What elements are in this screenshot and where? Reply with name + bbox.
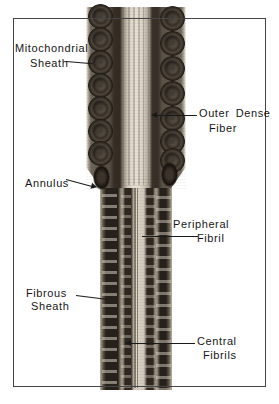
- label-mitochondrial-sheath-line1: Mitochondrial: [15, 42, 88, 55]
- label-central-fibrils-line2: Fibrils: [203, 349, 237, 362]
- label-outer-dense-fiber-line1: Outer Dense: [199, 107, 270, 120]
- label-peripheral-fibril-line2: Fibril: [197, 232, 224, 245]
- leader-peripheral-fibril: [142, 236, 198, 237]
- label-annulus: Annulus: [25, 177, 69, 190]
- label-mitochondrial-sheath-line2: Sheath: [30, 57, 68, 70]
- label-peripheral-fibril-line1: Peripheral: [173, 218, 229, 231]
- figure-frame: [13, 18, 266, 387]
- label-fibrous-sheath-line2: Sheath: [31, 300, 69, 313]
- label-central-fibrils-line1: Central: [197, 335, 237, 348]
- label-fibrous-sheath-line1: Fibrous: [26, 287, 67, 300]
- figure-canvas: Mitochondrial Sheath Outer Dense Fiber A…: [0, 0, 279, 404]
- leader-outer-dense-fiber: [157, 115, 197, 116]
- label-outer-dense-fiber-line2: Fiber: [209, 122, 237, 135]
- leader-central-fibrils: [131, 343, 195, 344]
